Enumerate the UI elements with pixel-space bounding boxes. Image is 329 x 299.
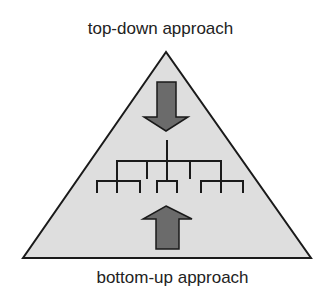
pyramid-diagram bbox=[0, 0, 329, 299]
bottom-up-label: bottom-up approach bbox=[8, 268, 329, 288]
